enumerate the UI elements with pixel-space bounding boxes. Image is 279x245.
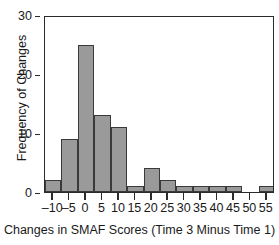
histogram-bar xyxy=(176,186,192,192)
x-axis-tick-mark xyxy=(166,193,168,200)
y-axis-tick-label: 0 xyxy=(10,187,32,199)
x-axis-tick-mark xyxy=(150,193,152,200)
x-axis-title: Changes in SMAF Scores (Time 3 Minus Tim… xyxy=(0,222,279,238)
x-axis-tick-mark xyxy=(265,193,267,200)
histogram-bar xyxy=(226,186,242,192)
histogram-bar xyxy=(127,186,143,192)
x-axis-tick-label: 55 xyxy=(251,201,279,216)
x-axis-tick-mark xyxy=(134,193,136,200)
x-axis-tick-mark xyxy=(68,193,70,200)
histogram-bar xyxy=(193,186,209,192)
histogram-bar xyxy=(144,168,160,192)
histogram-bar xyxy=(61,139,77,192)
y-axis-tick-mark xyxy=(35,193,40,194)
x-axis-tick-mark xyxy=(51,193,53,200)
y-axis-tick-label: 20 xyxy=(10,69,32,81)
y-axis-tick-label: 10 xyxy=(10,128,32,140)
histogram-bar xyxy=(111,127,127,192)
x-axis-tick-mark xyxy=(249,193,251,200)
plot-area xyxy=(44,16,274,193)
histogram-bar xyxy=(259,186,274,192)
x-axis-tick-mark xyxy=(216,193,218,200)
y-axis-tick-mark xyxy=(35,134,40,135)
histogram-bars xyxy=(45,17,273,192)
x-axis-tick-mark xyxy=(101,193,103,200)
x-axis-tick-mark xyxy=(117,193,119,200)
histogram-bar xyxy=(45,180,61,192)
x-axis-tick-mark xyxy=(183,193,185,200)
x-axis-tick-mark xyxy=(84,193,86,200)
histogram-bar xyxy=(78,45,94,193)
histogram-bar xyxy=(94,115,110,192)
histogram-figure: Frequency of Changes 0102030 –10–5051015… xyxy=(0,0,279,245)
x-axis-ticks: –10–50510152025303540455055 xyxy=(44,201,274,216)
histogram-bar xyxy=(160,180,176,192)
y-axis-tick-label: 30 xyxy=(10,10,32,22)
x-axis-tick-mark xyxy=(232,193,234,200)
x-axis-tick-mark xyxy=(199,193,201,200)
y-axis-tick-mark xyxy=(35,75,40,76)
x-axis-tick-marks xyxy=(44,193,274,201)
y-axis-tick-mark xyxy=(35,16,40,17)
histogram-bar xyxy=(209,186,225,192)
